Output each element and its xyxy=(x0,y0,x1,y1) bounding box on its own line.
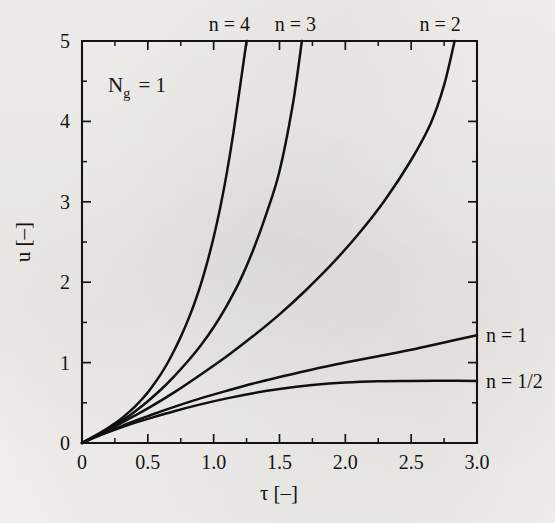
parameter-annotation: Ng = 1 xyxy=(108,73,166,101)
x-axis-title: τ [–] xyxy=(260,481,298,505)
x-tick-label: 2.5 xyxy=(399,451,424,473)
series-labels: n = 4n = 3n = 2n = 1n = 1/2 xyxy=(209,13,543,392)
x-tick-label: 1.5 xyxy=(267,451,292,473)
curve-n-2 xyxy=(82,41,455,443)
series-label-n-1: n = 1 xyxy=(486,324,527,346)
y-axis-ticks xyxy=(82,41,477,443)
x-tick-label: 1.0 xyxy=(201,451,226,473)
series-label-n-2: n = 2 xyxy=(419,13,460,35)
x-tick-label: 0 xyxy=(77,451,87,473)
figure-container: 00.51.01.52.02.53.0 012345 n = 4n = 3n =… xyxy=(0,0,555,523)
y-tick-label: 1 xyxy=(60,352,70,374)
y-tick-label: 5 xyxy=(60,30,70,52)
y-tick-label: 0 xyxy=(60,432,70,454)
x-tick-label: 2.0 xyxy=(333,451,358,473)
x-axis-tick-labels: 00.51.01.52.02.53.0 xyxy=(77,451,490,473)
chart-svg: 00.51.01.52.02.53.0 012345 n = 4n = 3n =… xyxy=(0,0,555,523)
data-curves xyxy=(82,41,477,443)
y-axis-tick-labels: 012345 xyxy=(60,30,70,454)
annotation-symbol: Ng = 1 xyxy=(108,73,166,101)
x-axis-ticks xyxy=(82,41,477,443)
y-tick-label: 3 xyxy=(60,191,70,213)
x-tick-label: 3.0 xyxy=(465,451,490,473)
curve-n-3 xyxy=(82,41,302,443)
plot-frame xyxy=(82,41,477,443)
series-label-n-4: n = 4 xyxy=(209,13,250,35)
series-label-n-1-2: n = 1/2 xyxy=(486,370,543,392)
y-axis-title: u [–] xyxy=(11,222,35,262)
axes-box xyxy=(82,41,477,443)
curve-n-4 xyxy=(82,41,247,443)
y-tick-label: 2 xyxy=(60,271,70,293)
series-label-n-3: n = 3 xyxy=(275,13,316,35)
x-tick-label: 0.5 xyxy=(135,451,160,473)
y-tick-label: 4 xyxy=(60,110,70,132)
